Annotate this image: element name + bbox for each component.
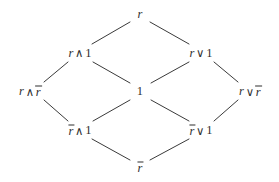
node-part-num: 1: [137, 84, 143, 98]
node-part-neg: r: [137, 161, 142, 174]
node-part-neg: r: [36, 85, 41, 98]
lattice-node-r-and-rbar: r∧r: [17, 84, 43, 99]
node-part-var: r: [137, 7, 142, 21]
lattice-edge: [92, 22, 130, 44]
lattice-edge: [44, 62, 68, 82]
node-part-op: ∨: [244, 84, 256, 98]
node-part-neg: r: [256, 85, 261, 98]
lattice-edge: [93, 62, 130, 83]
node-part-op: ∧: [74, 46, 86, 60]
node-part-op: ∧: [74, 123, 86, 137]
lattice-diagram: rr∧1r∨1r∧r1r∨rr∧1r∨1r: [0, 0, 279, 182]
lattice-edge: [92, 139, 130, 160]
lattice-edge: [151, 62, 189, 83]
lattice-node-rbar-or-1: r∨1: [187, 123, 214, 138]
node-part-num: 1: [85, 46, 91, 60]
lattice-node-top: r: [135, 7, 144, 22]
lattice-node-r-or-rbar: r∨r: [237, 84, 263, 99]
lattice-node-r-and-1: r∧1: [66, 46, 93, 61]
node-part-op: ∧: [24, 84, 36, 98]
lattice-edge: [150, 22, 189, 44]
node-part-num: 1: [206, 46, 212, 60]
node-part-num: 1: [206, 123, 212, 137]
lattice-node-r-or-1: r∨1: [187, 46, 214, 61]
lattice-edge: [214, 100, 238, 121]
node-part-op: ∨: [195, 46, 207, 60]
lattice-node-one: 1: [135, 84, 145, 99]
node-part-neg: r: [68, 124, 73, 137]
node-part-neg: r: [189, 124, 194, 137]
lattice-edge: [150, 139, 189, 160]
lattice-node-bottom: r: [135, 160, 144, 175]
lattice-edge: [93, 100, 130, 121]
lattice-edge: [214, 62, 238, 82]
lattice-node-rbar-and-1: r∧1: [66, 123, 93, 138]
node-part-op: ∨: [195, 123, 207, 137]
lattice-edge: [151, 100, 189, 121]
lattice-edge: [44, 100, 68, 121]
node-part-num: 1: [85, 123, 91, 137]
